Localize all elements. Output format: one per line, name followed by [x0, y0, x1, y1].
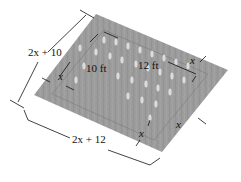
- border-bottom-label: x: [138, 127, 144, 139]
- inner-width-label: 10 ft: [86, 62, 106, 74]
- inner-length-label: 12 ft: [138, 59, 158, 71]
- outer-length-label: 2x + 12: [72, 133, 106, 145]
- border-top-left-label: x: [57, 70, 63, 82]
- garden-diagram: 2x + 10 2x + 12 10 ft 12 ft x x x x: [0, 0, 241, 182]
- outer-width-label: 2x + 10: [28, 46, 62, 58]
- outer-plot: [34, 14, 228, 152]
- border-right-label: x: [175, 118, 181, 130]
- border-top-right-label: x: [189, 54, 195, 66]
